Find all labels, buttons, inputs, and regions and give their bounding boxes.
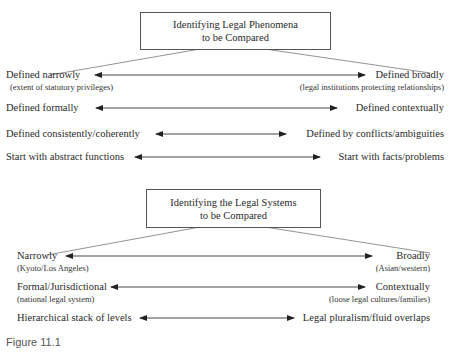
row-left-label: Defined consistently/coherently (6, 128, 140, 140)
row-right-label: Defined contextually (356, 102, 444, 114)
row-left-sublabel: (national legal system) (17, 294, 94, 304)
row-right-label: Legal pluralism/fluid overlaps (303, 312, 430, 324)
row-left-label: Hierarchical stack of levels (17, 312, 132, 324)
section-title-line1: Identifying the Legal Systems (147, 196, 320, 209)
connector-lines (0, 0, 450, 359)
row-left-label: Defined formally (6, 102, 79, 114)
row-left-label: Start with abstract functions (6, 151, 124, 163)
row-right-sublabel: (legal institutions protecting relations… (300, 82, 444, 92)
section-title-line2: to be Compared (141, 31, 330, 44)
row-left-sublabel: (extent of statutory privileges) (10, 82, 113, 92)
row-left-label: Narrowly (17, 250, 57, 262)
section-title-line1: Identifying Legal Phenomena (141, 18, 330, 31)
row-right-label: Broadly (396, 250, 430, 262)
row-right-label: Start with facts/problems (338, 151, 444, 163)
row-right-label: Defined by conflicts/ambiguities (306, 128, 444, 140)
figure-caption: Figure 11.1 (6, 336, 61, 348)
row-left-label: Formal/Jurisdictional (17, 281, 107, 293)
legal-systems-title-box: Identifying the Legal Systems to be Comp… (146, 189, 321, 228)
row-left-sublabel: (Kyoto/Los Angeles) (17, 263, 89, 273)
legal-phenomena-title-box: Identifying Legal Phenomena to be Compar… (140, 12, 331, 50)
row-right-sublabel: (loose legal cultures/families) (329, 294, 430, 304)
row-right-label: Contextually (376, 281, 430, 293)
row-right-label: Defined broadly (375, 69, 444, 81)
row-right-sublabel: (Asian/western) (376, 263, 430, 273)
section-title-line2: to be Compared (147, 209, 320, 222)
row-left-label: Defined narrowly (6, 69, 80, 81)
